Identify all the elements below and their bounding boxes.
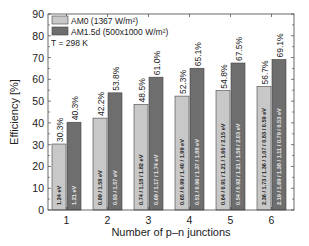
bar-value-label: 53.8% <box>111 66 121 91</box>
bar-value-label: 48.5% <box>137 78 147 103</box>
x-tick-label: 3 <box>146 214 152 226</box>
efficiency-bar-chart: 30.3%1.24 eV40.3%1.21 eV42.2%0.89 / 1.58… <box>0 0 309 246</box>
bar-bandgap-label: 0.54 / 0.92 / 1.21 / 1.56 / 2.03 eV <box>235 123 241 205</box>
y-tick-label: 40 <box>32 117 44 129</box>
bar-bandgap-label: 2.19 / 1.69 / 1.38 / 1.11 / 0.79 / 0.53 … <box>276 108 282 205</box>
bar-value-label: 54.8% <box>219 64 229 89</box>
x-tick-label: 6 <box>269 214 275 226</box>
x-axis-label: Number of p–n junctions <box>111 226 231 238</box>
y-tick-label: 20 <box>32 160 44 172</box>
x-tick-label: 1 <box>64 214 70 226</box>
bars-layer: 30.3%1.24 eV40.3%1.21 eV42.2%0.89 / 1.58… <box>52 33 286 210</box>
temperature-annotation: T = 298 K <box>51 38 88 48</box>
bar-bandgap-label: 1.24 eV <box>56 185 62 205</box>
y-tick-label: 90 <box>32 8 44 20</box>
y-tick-label: 80 <box>32 30 44 42</box>
y-tick-label: 0 <box>38 204 44 216</box>
bar-bandgap-label: 0.93 / 1.57 eV <box>112 170 118 205</box>
bar-bandgap-label: 0.65 / 0.99 / 1.40 / 1.99 eV <box>179 139 185 205</box>
bar-bandgap-label: 0.69 / 1.17 / 1.74 eV <box>153 154 159 205</box>
y-tick-label: 70 <box>32 52 44 64</box>
bar-bandgap-label: 0.64 / 0.91 / 1.21 / 1.60 / 2.15 eV <box>220 123 226 205</box>
bar-value-label: 30.3% <box>55 117 65 142</box>
bar-value-label: 65.1% <box>193 42 203 67</box>
bar-bandgap-label: 1.21 eV <box>71 185 77 205</box>
legend-swatch-am0 <box>52 16 68 24</box>
x-tick-label: 2 <box>105 214 111 226</box>
legend-swatch-am15d <box>52 27 68 35</box>
legend: AM0 (1367 W/m²) AM1.5d (500x1000 W/m²) T… <box>51 16 168 48</box>
y-axis-label: Efficiency [%] <box>8 79 20 145</box>
bar-value-label: 56.7% <box>260 60 270 85</box>
bar-bandgap-label: 2.36 / 1.73 / 1.36 / 1.07 / 0.83 / 0.59 … <box>261 108 267 205</box>
bar-bandgap-label: 0.74 / 1.18 / 1.82 eV <box>138 154 144 205</box>
legend-label-am15d: AM1.5d (500x1000 W/m²) <box>71 27 168 37</box>
bar-value-label: 52.3% <box>178 70 188 95</box>
y-tick-label: 50 <box>32 95 44 107</box>
bar-value-label: 69.1% <box>275 33 285 58</box>
x-tick-label: 4 <box>187 214 193 226</box>
y-tick-label: 10 <box>32 182 44 194</box>
bar-bandgap-label: 0.89 / 1.58 eV <box>97 170 103 205</box>
bar-value-label: 40.3% <box>70 96 80 121</box>
bar-value-label: 42.2% <box>96 92 106 117</box>
x-tick-label: 5 <box>228 214 234 226</box>
y-tick-label: 60 <box>32 73 44 85</box>
bar-value-label: 61.0% <box>152 51 162 76</box>
bar-value-label: 67.5% <box>234 36 244 61</box>
legend-label-am0: AM0 (1367 W/m²) <box>71 16 138 26</box>
bar-bandgap-label: 0.51 / 0.96 / 1.37 / 1.88 eV <box>194 139 200 205</box>
y-tick-label: 30 <box>32 139 44 151</box>
